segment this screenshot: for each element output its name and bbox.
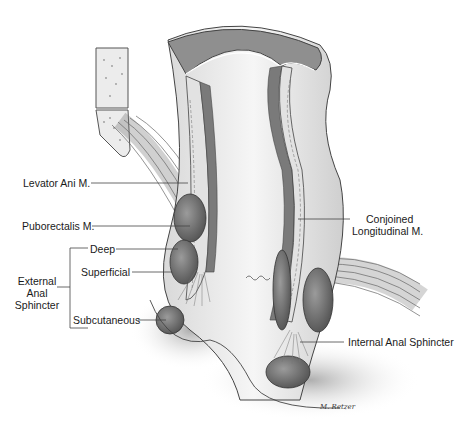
artist-signature: M. Retzer: [320, 403, 355, 411]
label-internal-anal-sphincter: Internal Anal Sphincter: [348, 336, 454, 348]
label-puborectalis: Puborectalis M.: [22, 220, 94, 232]
coccyx-bone: [96, 48, 130, 157]
right-levator-muscle: [330, 258, 420, 316]
internal-sphincter-right: [273, 250, 291, 330]
label-conjoined-longitudinal: Conjoined Longitudinal M.: [352, 213, 448, 237]
anatomy-figure: Levator Ani M. Puborectalis M. Deep Supe…: [0, 0, 466, 430]
label-levator-ani: Levator Ani M.: [23, 177, 90, 189]
label-external-anal-sphincter: External Anal Sphincter: [14, 275, 60, 311]
label-subcutaneous: Subcutaneous: [73, 314, 140, 326]
label-deep: Deep: [90, 243, 115, 255]
label-superficial: Superficial: [81, 266, 130, 278]
